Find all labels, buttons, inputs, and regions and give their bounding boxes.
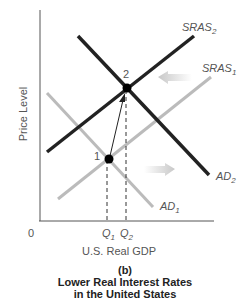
q2-label: Q2 — [120, 227, 133, 242]
ad2-label: AD2 — [216, 170, 236, 185]
equilibrium-point-1 — [105, 155, 114, 164]
ad1-label: AD1 — [160, 200, 180, 215]
x-axis-label: U.S. Real GDP — [82, 245, 156, 257]
sras1-label: SRAS1 — [202, 62, 236, 77]
sras2-label: SRAS2 — [182, 21, 216, 36]
q1-label: Q1 — [102, 227, 115, 242]
equilibrium-point-2 — [123, 84, 132, 93]
origin-label: 0 — [28, 227, 34, 239]
panel-label: (b) — [0, 264, 250, 276]
point-2-label: 2 — [123, 68, 129, 80]
figure-title-line2: in the United States — [0, 288, 250, 299]
ad-shift-right-arrow-icon — [144, 163, 175, 176]
figure-title-line1: Lower Real Interest Rates — [0, 276, 250, 288]
y-axis-label: Price Level — [17, 79, 29, 149]
sras-shift-left-arrow-icon — [158, 71, 192, 84]
point-1-label: 1 — [94, 150, 100, 162]
